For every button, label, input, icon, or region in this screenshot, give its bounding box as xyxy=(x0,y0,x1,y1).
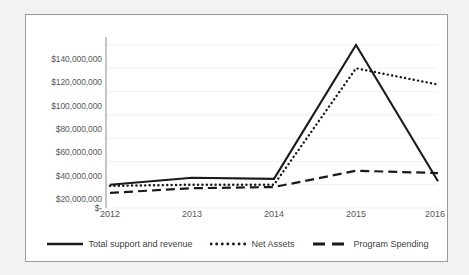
x-tick-label-2014: 2014 xyxy=(244,209,304,219)
legend-item-net-assets[interactable]: Net Assets xyxy=(210,239,295,249)
y-tick-label-140m: $140,000,000 xyxy=(26,54,102,64)
legend-label-net-assets: Net Assets xyxy=(252,239,295,249)
series-line-net-assets xyxy=(110,68,438,186)
legend-label-total-support-and-revenue: Total support and revenue xyxy=(88,239,192,249)
legend-label-program-spending: Program Spending xyxy=(354,239,429,249)
x-tick-label-2016: 2016 xyxy=(405,209,465,219)
y-tick-label-120m: $120,000,000 xyxy=(26,77,102,87)
y-tick-label-100m: $100,000,000 xyxy=(26,101,102,111)
gridlines xyxy=(106,45,438,208)
legend-item-total-support-and-revenue[interactable]: Total support and revenue xyxy=(46,239,192,249)
legend-swatch-dotted-icon xyxy=(210,239,248,249)
chart-container: $140,000,000 $120,000,000 $100,000,000 $… xyxy=(25,14,448,262)
y-tick-label-60m: $60,000,000 xyxy=(26,147,102,157)
y-tick-label-40m: $40,000,000 xyxy=(26,171,102,181)
series-line-program-spending xyxy=(110,171,438,193)
x-tick-label-2012: 2012 xyxy=(80,209,140,219)
y-tick-label-80m: $80,000,000 xyxy=(26,124,102,134)
legend-swatch-solid-icon xyxy=(46,239,84,249)
legend-item-program-spending[interactable]: Program Spending xyxy=(312,239,429,249)
chart-legend: Total support and revenue Net Assets Pro… xyxy=(26,233,449,255)
x-tick-label-2013: 2013 xyxy=(162,209,222,219)
legend-swatch-dashed-icon xyxy=(312,239,350,249)
line-chart-plot xyxy=(26,15,449,263)
x-tick-label-2015: 2015 xyxy=(326,209,386,219)
